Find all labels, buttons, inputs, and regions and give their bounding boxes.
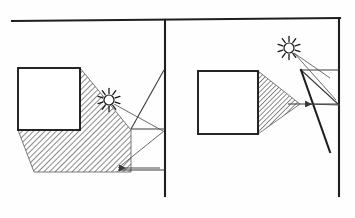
right-panel-group [198, 37, 340, 153]
shadow-region-right [258, 71, 300, 134]
left-diagonal-upper [131, 70, 164, 129]
square-occluder-left [18, 68, 80, 130]
diagram-canvas [0, 0, 355, 218]
left-panel-group [18, 68, 165, 172]
sun-left-disc [104, 95, 114, 105]
top-horizontal-rail [12, 18, 340, 21]
square-occluder-right [198, 71, 258, 134]
sun-right-disc [284, 43, 294, 53]
right-diagonal-b [301, 70, 330, 152]
shadow-diagram [0, 0, 355, 218]
ray-right-sun-to-ledge [294, 53, 330, 78]
ray-right-sun-to-apex [294, 53, 336, 100]
